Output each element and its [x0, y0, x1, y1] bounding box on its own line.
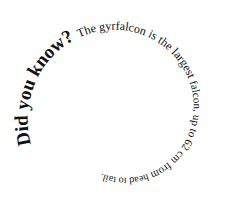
segment-fact-1: The gyrfalcon is the largest [75, 19, 200, 83]
segment-fact-3: head to tail. [98, 172, 150, 187]
spiral-text-graphic: Did you know? The gyrfalcon is the large… [0, 0, 239, 210]
spiral-svg: Did you know? The gyrfalcon is the large… [0, 0, 239, 210]
segment-fact-2: falcon, up to 62 cm from [147, 79, 204, 183]
segment-intro: Did you know? [11, 22, 81, 147]
spiral-text: Did you know? The gyrfalcon is the large… [11, 19, 204, 187]
